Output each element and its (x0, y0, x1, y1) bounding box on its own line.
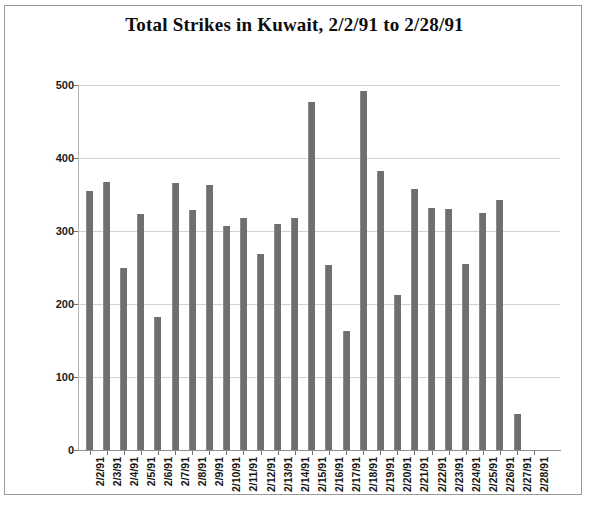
x-axis-tick-mark (295, 451, 296, 455)
x-axis-tick-mark (500, 451, 501, 455)
x-axis-tick-mark (107, 451, 108, 455)
x-axis-tick-mark (192, 451, 193, 455)
x-axis-tick-mark (329, 451, 330, 455)
x-axis-tick-mark (261, 451, 262, 455)
x-axis-tick-label: 2/7/91 (179, 457, 191, 486)
gridline (78, 304, 560, 305)
bar (343, 331, 350, 450)
x-axis-tick-label: 2/9/91 (213, 457, 225, 486)
bar (257, 254, 264, 450)
x-axis-tick-mark (209, 451, 210, 455)
y-axis-tick-mark (74, 158, 78, 159)
gridline (78, 377, 560, 378)
y-axis-tick-label: 100 (30, 371, 74, 383)
bar (172, 183, 179, 450)
x-axis-tick-mark (158, 451, 159, 455)
bar (291, 218, 298, 450)
bar (103, 182, 110, 450)
bar (223, 226, 230, 450)
x-axis-tick-label: 2/6/91 (162, 457, 174, 486)
x-axis-tick-mark (346, 451, 347, 455)
bar (325, 265, 332, 450)
x-axis-tick-mark (380, 451, 381, 455)
bar (308, 102, 315, 450)
x-axis-line (78, 450, 561, 451)
x-axis-tick-mark (534, 451, 535, 455)
y-axis-tick-label: 300 (30, 225, 74, 237)
y-axis-tick-label: 400 (30, 152, 74, 164)
bar (411, 189, 418, 450)
x-axis-tick-mark (397, 451, 398, 455)
bar (377, 171, 384, 450)
y-axis-tick-mark (74, 377, 78, 378)
bar (137, 214, 144, 450)
x-axis-tick-mark (449, 451, 450, 455)
bar (514, 414, 521, 451)
plot-area (78, 85, 560, 450)
x-axis-tick-label: 2/2/91 (94, 457, 106, 486)
x-axis-tick-label: 2/16/91 (333, 457, 345, 492)
bar (496, 200, 503, 450)
x-axis-tick-label: 2/11/91 (247, 457, 259, 491)
y-axis-tick-mark (74, 231, 78, 232)
bar (462, 264, 469, 450)
x-axis-tick-label: 2/13/91 (282, 457, 294, 492)
bar (206, 185, 213, 450)
bar (154, 317, 161, 450)
figure-caption (8, 504, 580, 515)
x-axis-tick-mark (243, 451, 244, 455)
bar (189, 210, 196, 450)
x-axis-tick-label: 2/5/91 (145, 457, 157, 486)
x-axis-tick-mark (483, 451, 484, 455)
x-axis-tick-label: 2/18/91 (367, 457, 379, 492)
y-axis-tick-mark (74, 450, 78, 451)
x-axis-tick-mark (363, 451, 364, 455)
y-axis-labels: 0100200300400500 (26, 0, 74, 515)
x-axis-tick-label: 2/22/91 (436, 457, 448, 492)
x-axis-tick-mark (466, 451, 467, 455)
x-axis-tick-label: 2/17/91 (350, 457, 362, 492)
x-axis-tick-label: 2/21/91 (418, 457, 430, 492)
x-axis-tick-label: 2/24/91 (470, 457, 482, 492)
gridline (78, 85, 560, 86)
x-axis-tick-mark (312, 451, 313, 455)
x-axis-tick-mark (414, 451, 415, 455)
bar (86, 191, 93, 450)
x-axis-tick-label: 2/10/91 (230, 457, 242, 492)
y-axis-line (78, 85, 79, 451)
bar (240, 218, 247, 450)
x-axis-tick-label: 2/28/91 (538, 457, 550, 492)
chart-screenshot: Total Strikes in Kuwait, 2/2/91 to 2/28/… (0, 0, 589, 515)
x-axis-tick-label: 2/20/91 (401, 457, 413, 492)
x-axis-tick-label: 2/25/91 (487, 457, 499, 492)
bar (120, 268, 127, 451)
y-axis-tick-mark (74, 85, 78, 86)
bar (360, 91, 367, 450)
bar (274, 224, 281, 450)
y-axis-tick-label: 200 (30, 298, 74, 310)
x-axis-tick-mark (226, 451, 227, 455)
gridline (78, 231, 560, 232)
x-axis-tick-mark (432, 451, 433, 455)
x-axis-tick-mark (141, 451, 142, 455)
y-axis-tick-label: 500 (30, 79, 74, 91)
x-axis-tick-label: 2/8/91 (196, 457, 208, 486)
x-axis-tick-label: 2/23/91 (453, 457, 465, 492)
gridline (78, 158, 560, 159)
y-axis-tick-mark (74, 304, 78, 305)
x-axis-tick-label: 2/4/91 (128, 457, 140, 486)
bar (445, 209, 452, 450)
x-axis-tick-label: 2/12/91 (265, 457, 277, 492)
page-title: Total Strikes in Kuwait, 2/2/91 to 2/28/… (0, 14, 589, 36)
x-axis-tick-mark (124, 451, 125, 455)
x-axis-tick-label: 2/14/91 (299, 457, 311, 492)
bar (479, 213, 486, 450)
x-axis-tick-label: 2/26/91 (504, 457, 516, 492)
bar (428, 208, 435, 450)
x-axis-tick-label: 2/3/91 (111, 457, 123, 486)
y-axis-tick-label: 0 (30, 444, 74, 456)
x-axis-tick-label: 2/19/91 (384, 457, 396, 492)
x-axis-tick-mark (175, 451, 176, 455)
x-axis-tick-mark (90, 451, 91, 455)
x-axis-tick-label: 2/27/91 (521, 457, 533, 492)
